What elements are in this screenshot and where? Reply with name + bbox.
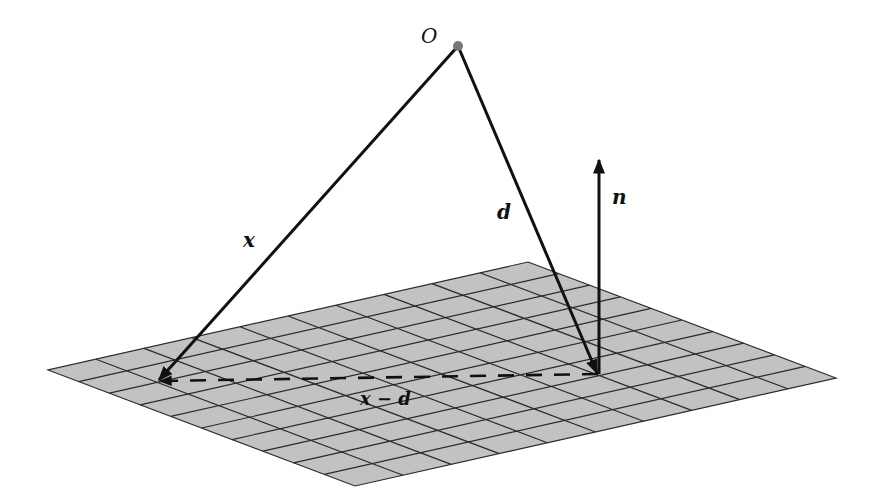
- vector-x-minus-d-label: x − d: [359, 388, 411, 409]
- vector-d-label: d: [497, 200, 511, 224]
- origin-label: O: [421, 24, 437, 48]
- vector-x-label: x: [242, 228, 256, 252]
- plane-vector-diagram: O x d n x − d: [0, 0, 876, 504]
- vector-n-label: n: [612, 185, 627, 209]
- origin-point: [453, 41, 463, 51]
